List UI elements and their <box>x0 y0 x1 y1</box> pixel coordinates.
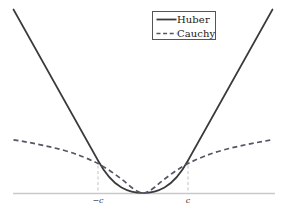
chart-canvas <box>0 0 286 215</box>
legend-label-huber: Huber <box>177 14 210 25</box>
cauchy-curve <box>14 140 273 193</box>
legend-line-sample-solid <box>156 15 177 24</box>
x-tick-label-neg-c: −c <box>86 196 110 205</box>
chart-legend: Huber Cauchy <box>152 11 216 40</box>
legend-entry-huber: Huber <box>153 13 215 26</box>
legend-entry-cauchy: Cauchy <box>153 27 215 40</box>
x-tick-label-pos-c: c <box>177 196 199 205</box>
loss-function-chart: −c c Huber Cauchy <box>0 0 286 215</box>
legend-line-sample-dashed <box>156 29 177 38</box>
huber-curve <box>14 10 273 194</box>
legend-label-cauchy: Cauchy <box>177 28 215 39</box>
